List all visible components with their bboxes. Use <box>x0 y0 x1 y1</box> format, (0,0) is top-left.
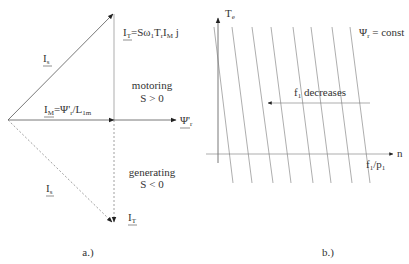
psi-label: Ψ'r <box>180 114 193 128</box>
im-formula: IM=Ψ'r/L1m <box>44 103 92 117</box>
synchronous-speed-label: f1/p1 <box>366 158 386 172</box>
diagram-canvas: Is IT=Sω1TrIM j IM=Ψ'r/L1m Ψ'r motoring … <box>0 0 409 264</box>
torque-axis-label: Te <box>225 7 235 21</box>
motoring-condition: S > 0 <box>140 92 164 104</box>
motoring-label: motoring <box>132 79 173 91</box>
it-generating-label: IT <box>128 211 137 225</box>
characteristic-lines <box>214 27 370 183</box>
caption-b: b.) <box>322 246 334 259</box>
generating-label: generating <box>129 166 176 178</box>
generating-condition: S < 0 <box>140 178 164 190</box>
f1-decreases-label: f1 decreases <box>294 86 346 100</box>
flux-constant-label: Ψr = const <box>359 26 404 40</box>
phasor-diagram: Is IT=Sω1TrIM j IM=Ψ'r/L1m Ψ'r motoring … <box>8 14 193 259</box>
speed-axis-label: n <box>397 147 403 159</box>
is-generating-vector <box>8 120 112 222</box>
is-label: Is <box>43 52 50 66</box>
it-formula: IT=Sω1TrIM j <box>123 26 179 40</box>
caption-a: a.) <box>82 246 94 259</box>
is-generating-label: Is <box>46 182 53 196</box>
torque-speed-chart: Te n f1/p1 Ψr = const f1 decreases b.) <box>206 7 404 259</box>
